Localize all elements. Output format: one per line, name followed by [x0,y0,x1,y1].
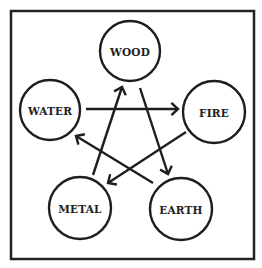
node-metal: METAL [49,177,111,239]
arrow-shaft [108,132,186,183]
node-label: WOOD [109,46,150,58]
arrow-water-to-fire [86,103,178,115]
arrow-shaft [140,88,168,174]
node-label: EARTH [159,204,202,216]
node-label: WATER [27,105,72,117]
nodes-group: WOODFIREEARTHMETALWATER [20,21,245,240]
node-water: WATER [20,80,80,140]
arrows-group [76,87,186,185]
arrow-fire-to-metal [108,132,186,185]
five-elements-diagram: WOODFIREEARTHMETALWATER [0,0,262,268]
node-wood: WOOD [100,21,160,81]
arrow-wood-to-earth [140,88,172,174]
node-earth: EARTH [150,178,212,240]
node-fire: FIRE [183,81,245,143]
node-label: FIRE [199,107,229,119]
arrow-earth-to-water [76,134,153,183]
arrow-shaft [76,136,153,183]
arrow-metal-to-wood [93,87,126,175]
node-label: METAL [58,203,102,215]
